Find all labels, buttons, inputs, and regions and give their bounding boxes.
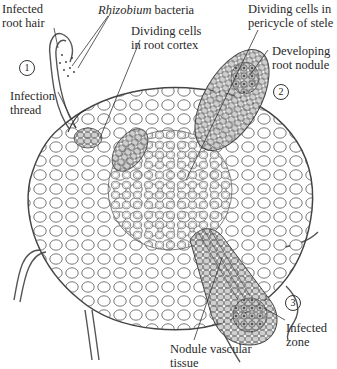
label-infected-root-hair: Infected root hair [2,2,45,30]
infected-zone [233,298,267,332]
label-rhizobium-italic: Rhizobium [98,3,151,17]
label-nodule-vascular: Nodule vascular tissue [170,342,252,369]
root-nodule-diagram: Infected root hair Rhizobium bacteria Di… [0,0,337,369]
label-dividing-pericycle: Dividing cells in pericycle of stele [248,2,333,30]
cortex-dividing-cells-left [74,128,102,148]
label-bacteria: bacteria [151,3,194,17]
label-dividing-cortex: Dividing cells in root cortex [131,24,201,52]
label-infection-thread: Infection thread [10,89,55,117]
stage-2-marker: 2 [273,84,289,100]
label-infected-zone: Infected zone [286,321,327,349]
label-rhizobium-bacteria: Rhizobium bacteria [98,3,194,17]
stage-1-marker: 1 [19,60,35,76]
label-developing-nodule: Developing root nodule [272,44,330,72]
stage-3-marker: 3 [285,295,301,311]
